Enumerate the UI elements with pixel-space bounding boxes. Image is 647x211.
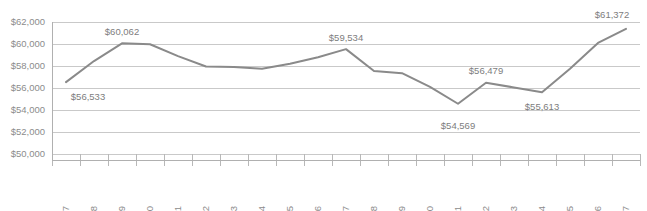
data-label-2007: $59,534 [329, 32, 363, 43]
x-axis-label-1997: 1997 [60, 206, 71, 211]
x-axis-label-2006: 2006 [312, 206, 323, 211]
y-axis-label: $52,000 [11, 126, 45, 137]
x-axis-label-2017: 2017 [620, 206, 631, 211]
x-axis-label-2008: 2008 [368, 206, 379, 211]
x-axis-label-2013: 2013 [508, 206, 519, 211]
x-axis-label-2007: 2007 [340, 206, 351, 211]
x-axis-label-2000: 2000 [144, 206, 155, 211]
x-axis-label-1999: 1999 [116, 206, 127, 211]
data-point-labels: $56,533$60,062$59,534$54,569$56,479$55,6… [71, 9, 629, 131]
y-axis-label: $54,000 [11, 104, 45, 115]
x-axis-label-2009: 2009 [396, 206, 407, 211]
data-label-2011: $54,569 [441, 120, 475, 131]
y-axis-label: $60,000 [11, 38, 45, 49]
axis-lines-group [52, 22, 640, 161]
y-axis-tick-labels: $62,000$60,000$58,000$56,000$54,000$52,0… [11, 16, 45, 159]
line-chart: $62,000$60,000$58,000$56,000$54,000$52,0… [0, 0, 647, 211]
data-label-2012: $56,479 [469, 65, 503, 76]
data-label-1999: $60,062 [105, 26, 139, 37]
x-axis-label-1998: 1998 [88, 206, 99, 211]
x-axis-label-2010: 2010 [424, 206, 435, 211]
x-axis-label-2016: 2016 [592, 206, 603, 211]
x-axis-label-2012: 2012 [480, 206, 491, 211]
x-axis-label-2001: 2001 [172, 206, 183, 211]
x-axis-label-2011: 2011 [452, 206, 463, 211]
x-axis-tick-labels: 1997199819992000200120022003200420052006… [60, 206, 631, 211]
chart-canvas: $62,000$60,000$58,000$56,000$54,000$52,0… [0, 0, 647, 211]
x-axis-label-2003: 2003 [228, 206, 239, 211]
y-axis-label: $62,000 [11, 16, 45, 27]
x-axis-label-2005: 2005 [284, 206, 295, 211]
x-axis-label-2002: 2002 [200, 206, 211, 211]
x-axis-label-2014: 2014 [536, 206, 547, 211]
y-axis-label: $56,000 [11, 82, 45, 93]
x-axis-label-2004: 2004 [256, 206, 267, 211]
y-axis-label: $58,000 [11, 60, 45, 71]
data-label-2017: $61,372 [595, 9, 629, 20]
y-axis-label: $50,000 [11, 148, 45, 159]
data-label-2014: $55,613 [525, 101, 559, 112]
x-axis-label-2015: 2015 [564, 206, 575, 211]
data-label-1997: $56,533 [71, 91, 105, 102]
